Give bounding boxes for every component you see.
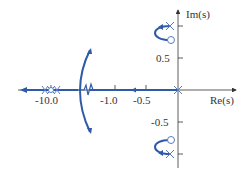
y-tick-label: -0.5 bbox=[151, 116, 169, 128]
zero-lower-icon bbox=[168, 137, 175, 144]
zero-near-minus-ten-icon bbox=[49, 88, 54, 93]
root-locus-plot: Im(s) Re(s) -10.0 -1.0 -0.5 0.5 -0.5 bbox=[0, 0, 246, 176]
x-tick-label: -10.0 bbox=[35, 94, 58, 106]
zero-upper-icon bbox=[168, 37, 175, 44]
x-tick-label: -0.5 bbox=[133, 94, 151, 106]
x-tick-label: -1.0 bbox=[100, 94, 118, 106]
y-axis-label: Im(s) bbox=[186, 8, 210, 21]
y-tick-label: 0.5 bbox=[156, 52, 170, 64]
x-axis-label: Re(s) bbox=[210, 94, 234, 107]
